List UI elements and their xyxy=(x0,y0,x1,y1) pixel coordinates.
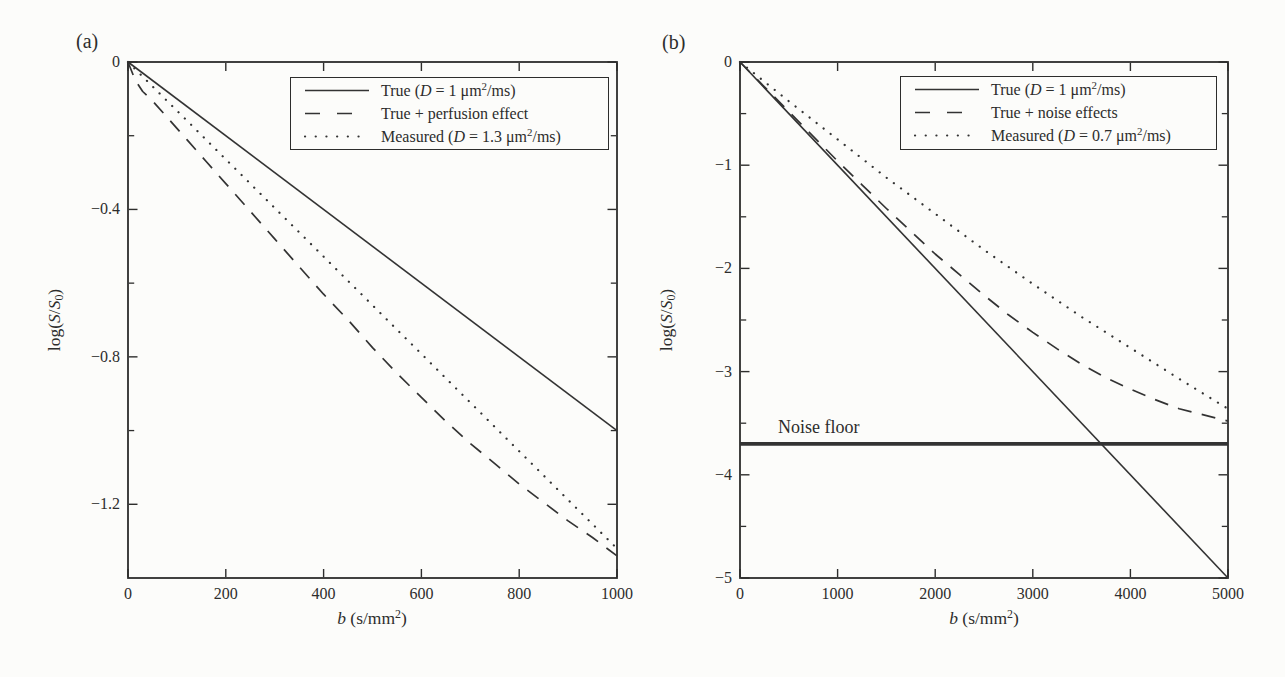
figure-diffusion-signal-decay: (a) (b) b (s/mm2) b (s/mm2) log(S/S0) lo… xyxy=(0,0,1285,677)
legend-entry-true-plus-perfusion: True + perfusion effect xyxy=(291,102,608,125)
text-part: ) xyxy=(1013,608,1019,628)
text-part: True + noise effects xyxy=(991,104,1118,121)
panel-a-xtick-label-1000: 1000 xyxy=(601,584,633,604)
panel-b-yaxis-label: log(S/S0) xyxy=(656,289,677,351)
panel-b-xtick-label-0: 0 xyxy=(736,584,744,604)
panel-b-ytick-label-0: 0 xyxy=(678,52,732,72)
legend-entry-true-plus-noise: True + noise effects xyxy=(901,101,1216,124)
text-part: 2 xyxy=(527,126,532,138)
panel-a-ytick-label--1.2: −1.2 xyxy=(66,494,120,514)
legend-label-true-d1: True (D = 1 μm2/ms) xyxy=(991,81,1125,99)
text-part: /ms) xyxy=(1142,127,1170,144)
text-part: D xyxy=(453,128,465,145)
panel-a-ytick-label-0: 0 xyxy=(66,52,120,72)
legend-label-measured-d0-7: Measured (D = 0.7 μm2/ms) xyxy=(991,127,1171,145)
legend-label-measured-d1-3: Measured (D = 1.3 μm2/ms) xyxy=(381,128,561,146)
panel-a-xtick-label-800: 800 xyxy=(507,584,531,604)
legend-label-true-plus-noise: True + noise effects xyxy=(991,104,1118,122)
panel-b-xaxis-label: b (s/mm2) xyxy=(949,608,1019,629)
text-part: (s/mm xyxy=(958,608,1007,628)
text-part: /ms) xyxy=(532,128,560,145)
legend-label-true-plus-perfusion: True + perfusion effect xyxy=(381,105,528,123)
text-part: Measured ( xyxy=(381,128,453,145)
panel-b-label: (b) xyxy=(662,31,685,54)
legend-label-true-d1: True (D = 1 μm2/ms) xyxy=(381,82,515,100)
legend-dashed-line-sample xyxy=(901,101,991,124)
legend-dashed-line-sample xyxy=(291,102,381,125)
panel-a-xtick-label-600: 600 xyxy=(409,584,433,604)
legend-dotted-line-sample xyxy=(901,124,991,147)
text-part: log( xyxy=(656,323,676,351)
panel-b-xtick-label-5000: 5000 xyxy=(1212,584,1244,604)
text-part: S xyxy=(656,314,676,323)
legend-entry-measured-d1-3: Measured (D = 1.3 μm2/ms) xyxy=(291,125,608,148)
text-part: S xyxy=(44,301,64,310)
panel-b-xtick-label-3000: 3000 xyxy=(1017,584,1049,604)
panel-b-xtick-label-1000: 1000 xyxy=(822,584,854,604)
panel-a-ytick-label--0.8: −0.8 xyxy=(66,347,120,367)
panel-b-ytick-label--5: −5 xyxy=(678,568,732,588)
legend-solid-line-sample xyxy=(901,78,991,101)
text-part: /ms) xyxy=(1097,81,1125,98)
panel-a-xtick-label-400: 400 xyxy=(312,584,336,604)
text-part: S xyxy=(44,314,64,323)
panel-b-ytick-label--3: −3 xyxy=(678,362,732,382)
text-part: (s/mm xyxy=(346,608,395,628)
text-part: b xyxy=(949,608,958,628)
text-part: = 1.3 μm xyxy=(465,128,527,145)
text-part: 0 xyxy=(664,295,678,301)
text-part: 2 xyxy=(1092,79,1097,91)
panel-b-ytick-label--2: −2 xyxy=(678,258,732,278)
panel-a-legend: True (D = 1 μm2/ms)True + perfusion effe… xyxy=(290,77,609,150)
text-part: / xyxy=(656,309,676,314)
text-part: S xyxy=(656,301,676,310)
panel-b-ytick-label--4: −4 xyxy=(678,465,732,485)
text-part: 2 xyxy=(1007,607,1013,621)
panel-b-xtick-label-4000: 4000 xyxy=(1114,584,1146,604)
text-part: D xyxy=(1063,127,1075,144)
text-part: = 0.7 μm xyxy=(1075,127,1137,144)
legend-entry-true-d1: True (D = 1 μm2/ms) xyxy=(901,78,1216,101)
panel-a-yaxis-label: log(S/S0) xyxy=(44,289,65,351)
panel-a-ytick-label--0.4: −0.4 xyxy=(66,199,120,219)
text-part: True ( xyxy=(381,82,420,99)
text-part: log( xyxy=(44,323,64,351)
panel-b-legend: True (D = 1 μm2/ms)True + noise effectsM… xyxy=(900,76,1217,150)
text-part: /ms) xyxy=(487,82,515,99)
panel-b-ytick-label--1: −1 xyxy=(678,155,732,175)
text-part: ) xyxy=(401,608,407,628)
text-part: 2 xyxy=(395,607,401,621)
legend-solid-line-sample xyxy=(291,79,381,102)
text-part: D xyxy=(1030,81,1042,98)
text-part: / xyxy=(44,309,64,314)
text-part: Measured ( xyxy=(991,127,1063,144)
text-part: D xyxy=(420,82,432,99)
text-part: 2 xyxy=(1137,125,1142,137)
text-part: True + perfusion effect xyxy=(381,105,528,122)
panel-b-xtick-label-2000: 2000 xyxy=(919,584,951,604)
text-part: b xyxy=(337,608,346,628)
legend-dotted-line-sample xyxy=(291,125,381,148)
text-part: = 1 μm xyxy=(1042,81,1092,98)
noise-floor-label: Noise floor xyxy=(778,417,859,438)
text-part: True ( xyxy=(991,81,1030,98)
panel-a-xtick-label-200: 200 xyxy=(214,584,238,604)
panel-a-label: (a) xyxy=(76,30,98,53)
panel-a-xaxis-label: b (s/mm2) xyxy=(337,608,407,629)
text-part: 2 xyxy=(482,80,487,92)
legend-entry-true-d1: True (D = 1 μm2/ms) xyxy=(291,79,608,102)
text-part: = 1 μm xyxy=(432,82,482,99)
legend-entry-measured-d0-7: Measured (D = 0.7 μm2/ms) xyxy=(901,124,1216,147)
panel-a-xtick-label-0: 0 xyxy=(124,584,132,604)
text-part: 0 xyxy=(52,295,66,301)
